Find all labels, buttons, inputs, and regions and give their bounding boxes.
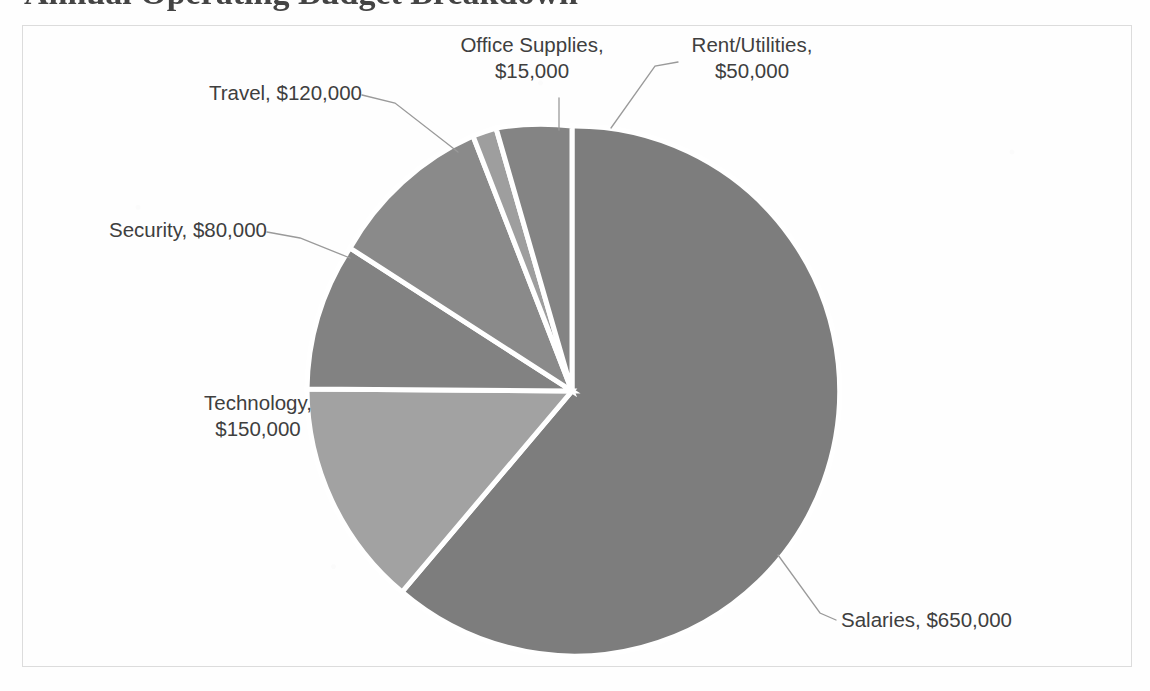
leader-line-salaries xyxy=(778,555,836,620)
data-label-rent-utilities-line2: $50,000 xyxy=(715,59,789,82)
leader-line-travel xyxy=(362,95,458,152)
leader-line-rent-utilities xyxy=(611,62,678,128)
data-label-office-supplies: Office Supplies, $15,000 xyxy=(447,32,617,84)
data-label-technology: Technology, $150,000 xyxy=(168,390,348,442)
data-label-office-supplies-line2: $15,000 xyxy=(495,59,569,82)
data-label-travel: Travel, $120,000 xyxy=(186,80,362,106)
data-label-technology-line2: $150,000 xyxy=(215,417,301,440)
data-label-rent-utilities-line1: Rent/Utilities, xyxy=(692,33,813,56)
data-label-technology-line1: Technology, xyxy=(204,391,312,414)
chart-canvas: Annual Operating Budget Breakdown xyxy=(0,0,1150,691)
data-label-office-supplies-line1: Office Supplies, xyxy=(460,33,603,56)
leader-line-security xyxy=(267,232,350,258)
data-label-security: Security, $80,000 xyxy=(85,217,267,243)
data-label-salaries: Salaries, $650,000 xyxy=(841,607,1071,633)
pie-chart-graphic xyxy=(0,0,1150,691)
data-label-rent-utilities: Rent/Utilities, $50,000 xyxy=(672,32,832,84)
